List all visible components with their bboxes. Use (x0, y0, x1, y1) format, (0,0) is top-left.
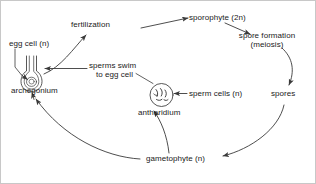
label-fertilization: fertilization (71, 20, 110, 30)
label-spores: spores (271, 89, 295, 99)
label-egg-cell: egg cell (n) (9, 39, 49, 49)
label-gametophyte: gametophyte (n) (146, 154, 205, 164)
label-archegonium: archegonium (11, 86, 58, 96)
life-cycle-diagram: egg cell (n) archegonium fertilization s… (0, 0, 316, 184)
label-sperm-cells: sperm cells (n) (189, 89, 242, 99)
label-spore-formation-line2: (meiosis) (230, 40, 304, 50)
label-antheridium: antheridium (138, 108, 180, 118)
label-sporophyte: sporophyte (2n) (189, 13, 246, 23)
antheridium-structure (150, 84, 173, 107)
label-sperms-swim-line2: to egg cell (96, 70, 133, 80)
